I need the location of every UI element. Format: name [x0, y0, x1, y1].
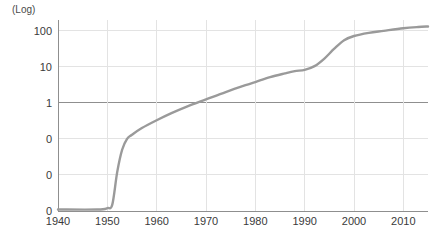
x-axis-tick-label: 1960 — [144, 215, 168, 227]
axis-lines — [58, 20, 428, 211]
plot-area — [0, 0, 430, 247]
x-axis-tick-label: 1950 — [95, 215, 119, 227]
x-axis-tick-label: 2010 — [391, 215, 415, 227]
x-axis-tick-label: 2000 — [342, 215, 366, 227]
x-axis-tick-label: 1980 — [243, 215, 267, 227]
x-axis-tick-label: 1940 — [46, 215, 70, 227]
log-line-chart: (Log) 000110100 194019501960197019801990… — [0, 0, 430, 247]
data-series — [58, 27, 428, 210]
x-axis-tick-label: 1970 — [194, 215, 218, 227]
grid-lines — [58, 20, 428, 211]
series-line-value — [58, 27, 428, 210]
x-axis-tick-label: 1990 — [292, 215, 316, 227]
